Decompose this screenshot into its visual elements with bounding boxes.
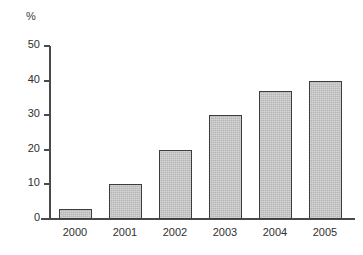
bar (259, 91, 292, 219)
x-axis-label: 2003 (200, 226, 250, 239)
plot-area (50, 46, 355, 219)
y-axis-unit-label: % (26, 10, 36, 23)
bar (159, 150, 192, 219)
x-axis-label: 2002 (150, 226, 200, 239)
x-axis-label: 2004 (250, 226, 300, 239)
bar-chart: % 01020304050 200020012002200320042005 (0, 0, 363, 255)
x-axis-label: 2001 (100, 226, 150, 239)
bar (59, 209, 92, 219)
x-axis-label: 2005 (300, 226, 350, 239)
bar (309, 81, 342, 219)
y-axis-tick-label: 50 (28, 38, 40, 51)
y-axis-tick-label: 40 (28, 73, 40, 86)
y-axis-tick-label: 20 (28, 142, 40, 155)
y-axis-tick-label: 0 (34, 211, 40, 224)
y-axis-tick-label: 30 (28, 107, 40, 120)
x-axis-label: 2000 (50, 226, 100, 239)
bar (209, 115, 242, 219)
bar (109, 184, 142, 219)
y-axis-tick-label: 10 (28, 176, 40, 189)
